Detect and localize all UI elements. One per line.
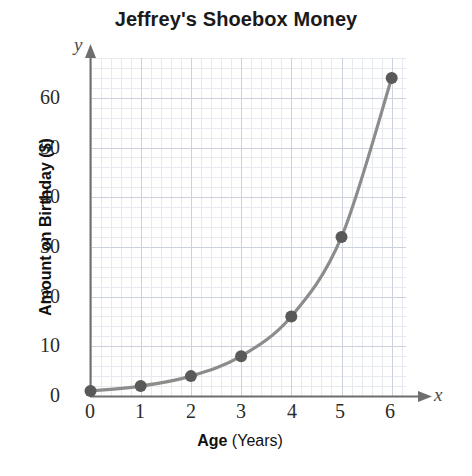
x-tick-label-6: 6: [375, 400, 405, 423]
y-axis-arrow-icon: [85, 44, 96, 58]
y-tick-label-0: 0: [14, 384, 60, 407]
x-tick-label-4: 4: [277, 400, 307, 423]
x-tick-label-3: 3: [226, 400, 256, 423]
x-axis-title-main: Age: [197, 432, 227, 449]
data-point-marker: [85, 385, 97, 397]
y-axis-variable-letter: y: [74, 34, 82, 56]
data-point-marker: [285, 310, 297, 322]
data-point-marker: [336, 231, 348, 243]
x-tick-label-1: 1: [125, 400, 155, 423]
data-point-marker: [135, 380, 147, 392]
x-axis-title-unit: (Years): [232, 432, 283, 449]
chart-page: Jeffrey's Shoebox Money 0 10 20 30 40 50…: [0, 0, 472, 476]
x-axis-title-wrap: Age (Years): [90, 432, 390, 450]
x-axis-title: Age (Years): [197, 432, 283, 449]
x-tick-label-5: 5: [325, 400, 355, 423]
data-point-marker: [235, 350, 247, 362]
data-point-marker: [185, 370, 197, 382]
y-axis-title: Amount on Birthday ($): [37, 138, 54, 316]
x-axis-arrow-icon: [418, 391, 432, 402]
x-axis-variable-letter: x: [434, 384, 442, 406]
x-tick-label-0: 0: [75, 400, 105, 423]
axes: [85, 44, 432, 402]
y-axis-title-wrap: Amount on Birthday ($): [37, 97, 55, 357]
x-tick-label-2: 2: [176, 400, 206, 423]
data-point-marker: [386, 72, 398, 84]
minor-gridlines: [91, 58, 407, 396]
